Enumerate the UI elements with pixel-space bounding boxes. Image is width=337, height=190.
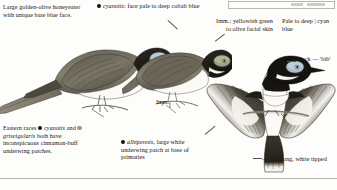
race-name-griseigularis: griseigularis (3, 132, 35, 139)
range-box-segment (307, 3, 325, 6)
caption-cyanotis-face-text: : face pale to deep cobalt blue (124, 2, 199, 9)
leader-line-black-bib (287, 61, 296, 62)
caption-eastern-lead: Eastern races (3, 124, 36, 131)
bullet-marker-grey (77, 126, 81, 130)
race-name-cyanotis: cyanotis (44, 124, 65, 131)
caption-eastern-mid: and (67, 124, 76, 131)
caption-eastern-races: Eastern races cyanotis and griseigularis… (3, 124, 99, 154)
bullet-marker-filled (97, 4, 101, 8)
caption-tail-long-white-tipped: — Tail long, white tipped (262, 155, 334, 163)
bullet-marker-filled (121, 140, 125, 144)
race-name-albipennis: albipennis (127, 138, 153, 145)
range-map-box (228, 1, 335, 9)
caption-black-bib: Black — 'bib' (296, 55, 336, 63)
caption-pale-to-deep-cyan: Pale to deep | cyan blue (282, 17, 336, 32)
caption-large-golden-olive: Large golden-olive honeyeater with uniqu… (3, 3, 87, 18)
bottom-divider (0, 178, 337, 179)
bullet-marker-filled (38, 126, 42, 130)
range-box-segment (291, 3, 303, 6)
caption-immature-facial-skin: Imm.: yellowish green to olive facial sk… (213, 17, 273, 32)
race-name-cyanotis: cyanotis (103, 2, 124, 9)
leader-line-tail (253, 158, 262, 159)
caption-albipennis-underwing: albipennis, large white underwing patch … (121, 138, 207, 161)
illustration-plate: Large golden-olive honeyeater with uniqu… (0, 0, 337, 190)
caption-cyanotis-face: cyanotis: face pale to deep cobalt blue (97, 2, 201, 10)
label-immature: Imm. (156, 98, 169, 105)
